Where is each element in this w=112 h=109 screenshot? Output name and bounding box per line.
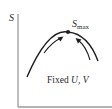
diagram-graphics [0, 0, 112, 109]
entropy-curve [27, 32, 98, 77]
condition-var-u: U [71, 75, 78, 85]
y-axis-label: S [9, 13, 14, 23]
entropy-maximum-diagram: S Smax Fixed U, V [0, 0, 112, 109]
condition-label: Fixed U, V [47, 76, 88, 86]
condition-var-v: V [83, 75, 89, 85]
maximum-label: Smax [72, 19, 89, 31]
left-arrow-shaft [44, 38, 61, 53]
maximum-subscript: max [77, 23, 89, 31]
maximum-point-marker [66, 30, 70, 34]
condition-prefix: Fixed [47, 75, 71, 85]
